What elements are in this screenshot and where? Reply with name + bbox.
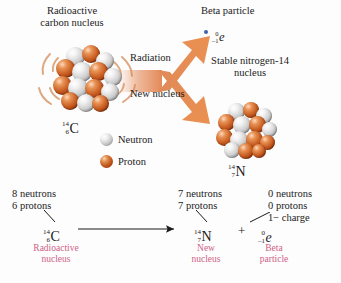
carbon-atomic-number: 6 [66, 129, 70, 137]
reactant-caption: Radioactive nucleus [16, 243, 96, 265]
legend-item-neutron: Neutron [100, 133, 152, 146]
carbon-14-symbol: 14 6 C [62, 112, 79, 136]
product2-proton-count: 0 protons [268, 200, 312, 212]
equation-plus-sign: + [238, 224, 245, 237]
product1-caption-line1: New [178, 243, 234, 254]
parent-nucleus-caption-line1: Radioactive [14, 5, 130, 17]
carbon-14-nucleus [52, 45, 126, 113]
electron-symbol: e [219, 31, 225, 44]
legend-label-proton: Proton [118, 156, 146, 168]
stable-nucleus-caption-line1: Stable nitrogen-14 [182, 55, 318, 67]
beta-particle-dot-icon [204, 30, 208, 34]
electron-mass-number: 0 [215, 30, 218, 37]
neutron-sphere-icon [100, 133, 113, 146]
product2-caption: Beta particle [246, 243, 302, 265]
parent-nucleus-caption: Radioactive carbon nucleus [14, 5, 130, 29]
decay-diagram: Radioactive carbon nucleus [0, 0, 341, 283]
product1-caption-line2: nucleus [178, 254, 234, 265]
beta-particle-label: Beta particle [201, 5, 254, 17]
reactant-nuclide: 14 6 C [43, 220, 60, 244]
nitrogen-14-nucleus [216, 102, 278, 158]
beta-particle-symbol: 0 –1 e [212, 22, 225, 44]
nitrogen-atomic-number: 7 [232, 172, 236, 180]
radiation-label: Radiation [130, 52, 171, 64]
reaction-arrow-icon [78, 222, 182, 236]
product1-element-symbol: N [202, 230, 212, 244]
reactant-caption-line2: nucleus [16, 254, 96, 265]
product2-nuclide: 0 –1 e [258, 221, 272, 245]
carbon-element-symbol: C [70, 122, 79, 136]
reactant-element-symbol: C [51, 230, 60, 244]
legend-item-proton: Proton [100, 155, 146, 168]
product1-neutron-count: 7 neutrons [178, 188, 222, 200]
reactant-counts: 8 neutrons 6 protons [12, 188, 56, 212]
proton-sphere-icon [100, 155, 113, 168]
reactant-caption-line1: Radioactive [16, 243, 96, 254]
electron-atomic-number: –1 [212, 37, 219, 44]
stable-nucleus-caption: Stable nitrogen-14 nucleus [182, 55, 318, 79]
stable-nucleus-caption-line2: nucleus [182, 67, 318, 79]
reactant-neutron-count: 8 neutrons [12, 188, 56, 200]
new-nucleus-label: New nucleus [130, 88, 185, 100]
product2-counts: 0 neutrons 0 protons 1− charge [268, 188, 312, 224]
product1-caption: New nucleus [178, 243, 234, 265]
nitrogen-14-symbol: 14 7 N [228, 155, 246, 179]
product2-neutron-count: 0 neutrons [268, 188, 312, 200]
product1-counts: 7 neutrons 7 protons [178, 188, 222, 212]
legend-label-neutron: Neutron [118, 134, 152, 146]
product2-caption-line1: Beta [246, 243, 302, 254]
product2-charge: 1− charge [268, 212, 312, 224]
product1-nuclide: 14 7 N [194, 220, 212, 244]
nitrogen-element-symbol: N [236, 165, 246, 179]
product2-caption-line2: particle [246, 254, 302, 265]
decay-split-arrows [118, 36, 230, 124]
parent-nucleus-caption-line2: carbon nucleus [14, 17, 130, 29]
